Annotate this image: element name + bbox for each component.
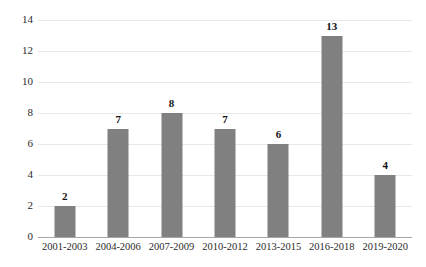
bar-group[interactable]: 6 bbox=[252, 20, 305, 237]
bar[interactable] bbox=[321, 36, 342, 238]
bar-group[interactable]: 13 bbox=[305, 20, 358, 237]
y-axis-tick-labels: 02468101214 bbox=[0, 0, 33, 267]
x-axis-tick-label: 2001-2003 bbox=[38, 240, 91, 254]
bar[interactable] bbox=[161, 113, 182, 237]
y-axis-tick-label: 12 bbox=[3, 45, 33, 56]
bar[interactable] bbox=[214, 129, 235, 238]
bar[interactable] bbox=[108, 129, 129, 238]
bar[interactable] bbox=[268, 144, 289, 237]
x-axis-tick-label: 2013-2015 bbox=[252, 240, 305, 254]
x-axis-tick-label: 2019-2020 bbox=[359, 240, 412, 254]
bar-value-label: 6 bbox=[276, 129, 282, 140]
bar-value-label: 7 bbox=[222, 114, 228, 125]
bars-group: 27876134 bbox=[38, 20, 412, 237]
bar-group[interactable]: 2 bbox=[38, 20, 91, 237]
bar-value-label: 13 bbox=[326, 21, 337, 32]
x-axis-line bbox=[38, 237, 412, 238]
y-axis-tick-label: 0 bbox=[3, 231, 33, 242]
bar-value-label: 8 bbox=[169, 98, 175, 109]
bar-group[interactable]: 8 bbox=[145, 20, 198, 237]
bar-group[interactable]: 4 bbox=[359, 20, 412, 237]
bar[interactable] bbox=[375, 175, 396, 237]
y-axis-tick-label: 10 bbox=[3, 76, 33, 87]
bar-value-label: 4 bbox=[383, 160, 389, 171]
x-axis-tick-label: 2016-2018 bbox=[305, 240, 358, 254]
bar-group[interactable]: 7 bbox=[198, 20, 251, 237]
x-axis-tick-label: 2010-2012 bbox=[198, 240, 251, 254]
y-axis-tick-label: 6 bbox=[3, 138, 33, 149]
bar-value-label: 2 bbox=[62, 191, 68, 202]
bar-chart-figure: 02468101214 27876134 2001-20032004-20062… bbox=[0, 0, 426, 267]
x-axis-tick-labels: 2001-20032004-20062007-20092010-20122013… bbox=[38, 240, 412, 260]
y-axis-tick-label: 14 bbox=[3, 14, 33, 25]
bar-value-label: 7 bbox=[115, 114, 121, 125]
y-axis-tick-label: 8 bbox=[3, 107, 33, 118]
x-axis-tick-label: 2004-2006 bbox=[91, 240, 144, 254]
bar-group[interactable]: 7 bbox=[91, 20, 144, 237]
y-axis-tick-label: 4 bbox=[3, 169, 33, 180]
y-axis-tick-label: 2 bbox=[3, 200, 33, 211]
x-axis-tick-label: 2007-2009 bbox=[145, 240, 198, 254]
bar[interactable] bbox=[54, 206, 75, 237]
